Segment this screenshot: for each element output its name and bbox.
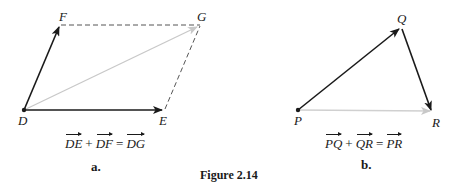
equals-sign: = — [373, 136, 386, 151]
figure-canvas — [0, 0, 455, 185]
point-p — [296, 108, 300, 112]
label-point-q: Q — [397, 12, 406, 25]
equals-sign: = — [113, 136, 126, 151]
sublabel-b: b. — [361, 158, 371, 171]
label-point-f: F — [59, 10, 67, 23]
vector-pq — [298, 29, 399, 110]
equation-a: DE+DF=DG — [65, 132, 145, 150]
label-point-e: E — [159, 114, 167, 127]
panel-b-diagram — [296, 29, 431, 112]
vector-term-de: DE — [65, 132, 82, 150]
dashed-side-eg — [165, 26, 200, 109]
plus-sign: + — [342, 136, 355, 151]
label-point-r: R — [432, 116, 440, 129]
vector-term-qr: QR — [356, 132, 373, 150]
figure-caption: Figure 2.14 — [200, 169, 258, 181]
point-d — [22, 108, 26, 112]
vector-qr — [402, 29, 431, 110]
sublabel-a: a. — [91, 160, 101, 173]
equation-b: PQ+QR=PR — [325, 132, 402, 150]
vector-pr — [298, 110, 430, 111]
vector-term-pr: PR — [386, 132, 402, 150]
vector-dg — [24, 27, 197, 110]
label-point-p: P — [294, 114, 302, 127]
vector-term-dg: DG — [126, 132, 145, 150]
panel-a-diagram — [22, 25, 200, 112]
vector-term-df: DF — [96, 132, 113, 150]
vector-df — [24, 27, 59, 110]
label-point-d: D — [18, 114, 27, 127]
vector-term-pq: PQ — [325, 132, 342, 150]
label-point-g: G — [197, 10, 206, 23]
plus-sign: + — [82, 136, 95, 151]
